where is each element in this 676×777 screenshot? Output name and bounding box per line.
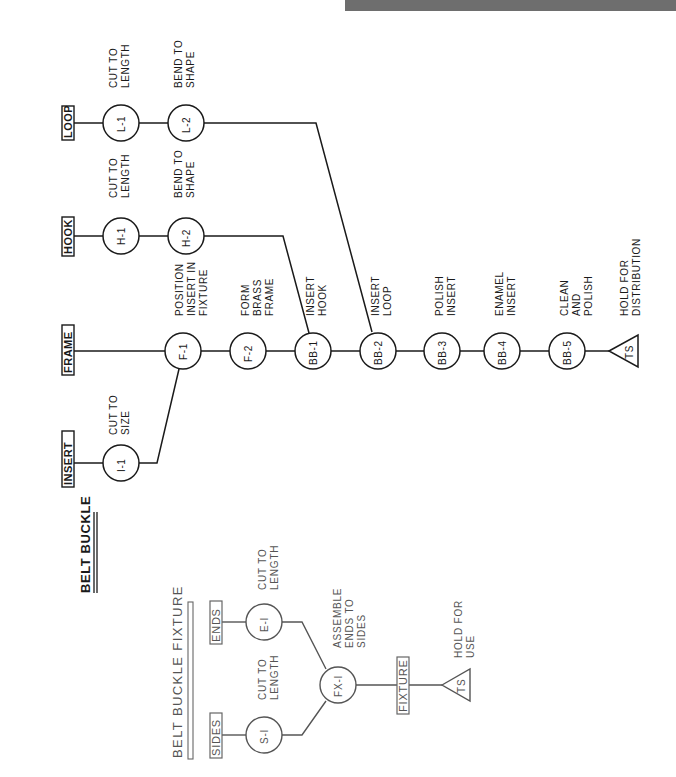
svg-text:HOOK: HOOK bbox=[62, 219, 74, 254]
svg-text:ENDS: ENDS bbox=[210, 608, 222, 642]
svg-text:POLISH: POLISH bbox=[583, 276, 594, 316]
input-box-insert: INSERT bbox=[62, 431, 74, 487]
svg-text:TS: TS bbox=[624, 345, 635, 359]
svg-text:ASSEMBLE: ASSEMBLE bbox=[332, 588, 343, 648]
svg-text:CUT TO: CUT TO bbox=[257, 659, 268, 700]
output-box-fixture: FIXTURE bbox=[397, 657, 409, 714]
svg-text:INSERT: INSERT bbox=[506, 276, 517, 316]
svg-text:CUT TO: CUT TO bbox=[108, 395, 119, 435]
svg-text:BB-4: BB-4 bbox=[497, 340, 508, 365]
fixture-title: BELT BUCKLE FIXTURE bbox=[170, 585, 185, 758]
svg-text:HOLD FOR: HOLD FOR bbox=[619, 260, 630, 316]
storage-triangle-use: TS HOLD FOR USE bbox=[442, 600, 476, 701]
svg-text:L-1: L-1 bbox=[116, 116, 127, 132]
operation-H-2: H-2 BEND TO SHAPE bbox=[168, 150, 204, 254]
svg-text:INSERT: INSERT bbox=[305, 276, 316, 316]
operation-FX-1: FX-I ASSEMBLE ENDS TO SIDES bbox=[320, 588, 367, 703]
input-box-sides: SIDES bbox=[210, 713, 222, 758]
svg-text:DISTRIBUTION: DISTRIBUTION bbox=[631, 238, 642, 316]
svg-text:TS: TS bbox=[456, 679, 467, 693]
svg-text:POSITION: POSITION bbox=[174, 263, 185, 316]
svg-text:S-I: S-I bbox=[259, 729, 270, 744]
operation-BB-4: BB-4 ENAMEL INSERT bbox=[484, 271, 520, 369]
svg-text:INSERT: INSERT bbox=[446, 276, 457, 316]
svg-text:BELT BUCKLE FIXTURE: BELT BUCKLE FIXTURE bbox=[170, 585, 185, 758]
svg-text:SIDES: SIDES bbox=[210, 719, 222, 756]
operation-BB-2: BB-2 INSERT LOOP bbox=[360, 276, 396, 369]
belt-buckle-title: BELT BUCKLE bbox=[78, 496, 93, 593]
svg-text:BB-1: BB-1 bbox=[308, 340, 319, 365]
svg-text:INSERT: INSERT bbox=[370, 276, 381, 316]
svg-text:FIXTURE: FIXTURE bbox=[397, 659, 409, 712]
operation-S-1: S-I CUT TO LENGTH bbox=[246, 655, 282, 753]
svg-text:CUT TO: CUT TO bbox=[257, 549, 268, 590]
svg-text:BB-5: BB-5 bbox=[562, 340, 573, 365]
svg-text:SIDES: SIDES bbox=[356, 614, 367, 648]
operation-L-2: L-2 BEND TO SHAPE bbox=[168, 40, 204, 141]
svg-text:F-1: F-1 bbox=[178, 343, 189, 360]
svg-text:BRASS: BRASS bbox=[252, 279, 263, 316]
svg-text:AND: AND bbox=[571, 293, 582, 316]
svg-text:USE: USE bbox=[465, 635, 476, 658]
input-box-frame: FRAME bbox=[62, 325, 74, 375]
svg-text:BELT BUCKLE: BELT BUCKLE bbox=[78, 496, 93, 593]
svg-text:CUT TO: CUT TO bbox=[108, 48, 119, 88]
operation-BB-3: BB-3 POLISH INSERT bbox=[424, 276, 460, 369]
svg-text:LENGTH: LENGTH bbox=[269, 545, 280, 590]
svg-text:POLISH: POLISH bbox=[434, 276, 445, 316]
svg-text:H-1: H-1 bbox=[116, 227, 127, 245]
svg-text:CUT TO: CUT TO bbox=[108, 158, 119, 198]
svg-text:FORM: FORM bbox=[240, 284, 251, 316]
svg-text:CLEAN: CLEAN bbox=[559, 280, 570, 316]
fixture-title-underline bbox=[188, 602, 193, 759]
svg-text:L-2: L-2 bbox=[181, 117, 192, 133]
svg-text:FIXTURE: FIXTURE bbox=[198, 269, 209, 316]
svg-text:INSERT: INSERT bbox=[62, 442, 74, 485]
svg-text:LENGTH: LENGTH bbox=[269, 655, 280, 700]
svg-text:ENAMEL: ENAMEL bbox=[494, 271, 505, 316]
svg-text:I-1: I-1 bbox=[116, 459, 127, 472]
storage-triangle-distribution: TS HOLD FOR DISTRIBUTION bbox=[609, 238, 642, 367]
svg-text:LENGTH: LENGTH bbox=[120, 44, 131, 88]
svg-text:LOOP: LOOP bbox=[62, 105, 74, 138]
svg-text:LENGTH: LENGTH bbox=[120, 154, 131, 198]
svg-text:E-I: E-I bbox=[259, 617, 270, 632]
svg-text:BB-3: BB-3 bbox=[437, 340, 448, 365]
svg-text:LOOP: LOOP bbox=[382, 286, 393, 316]
operation-F-2: F-2 FORM BRASS FRAME bbox=[230, 278, 275, 369]
svg-text:SHAPE: SHAPE bbox=[185, 161, 196, 198]
svg-text:BB-2: BB-2 bbox=[373, 340, 384, 365]
svg-text:SHAPE: SHAPE bbox=[185, 51, 196, 88]
svg-text:FRAME: FRAME bbox=[264, 278, 275, 316]
svg-text:FX-I: FX-I bbox=[333, 675, 344, 697]
svg-text:BEND TO: BEND TO bbox=[173, 40, 184, 88]
operation-BB-5: BB-5 CLEAN AND POLISH bbox=[549, 276, 594, 369]
svg-text:ENDS TO: ENDS TO bbox=[344, 598, 355, 648]
input-box-loop: LOOP bbox=[62, 105, 74, 140]
svg-text:HOLD FOR: HOLD FOR bbox=[453, 600, 464, 658]
svg-text:F-2: F-2 bbox=[243, 345, 254, 362]
svg-text:BEND TO: BEND TO bbox=[173, 150, 184, 198]
operation-H-1: H-1 CUT TO LENGTH bbox=[103, 154, 139, 254]
operation-E-1: E-I CUT TO LENGTH bbox=[246, 545, 282, 640]
operation-F-1: F-1 POSITION INSERT IN FIXTURE bbox=[165, 262, 209, 370]
svg-text:HOOK: HOOK bbox=[317, 284, 328, 316]
flow-lines bbox=[73, 123, 610, 463]
input-box-hook: HOOK bbox=[62, 217, 74, 256]
operation-I-1: I-1 CUT TO SIZE bbox=[103, 395, 139, 481]
svg-text:H-2: H-2 bbox=[181, 229, 192, 247]
input-box-ends: ENDS bbox=[210, 601, 222, 644]
svg-text:FRAME: FRAME bbox=[62, 331, 74, 373]
svg-text:INSERT IN: INSERT IN bbox=[186, 262, 197, 317]
operation-BB-1: BB-1 INSERT HOOK bbox=[295, 276, 331, 369]
process-chart: BELT BUCKLE LOOP HOOK FRAME bbox=[0, 0, 676, 777]
operation-L-1: L-1 CUT TO LENGTH bbox=[103, 44, 139, 141]
svg-text:SIZE: SIZE bbox=[120, 410, 131, 435]
